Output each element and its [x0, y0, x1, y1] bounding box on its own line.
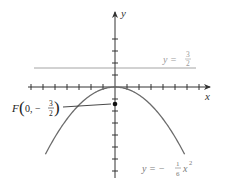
svg-text:1: 1	[176, 160, 180, 168]
svg-text:2: 2	[189, 159, 192, 166]
focus-leader-line	[63, 104, 111, 107]
directrix-label: y = 3 2	[162, 50, 191, 68]
svg-text:0, −: 0, −	[25, 103, 41, 114]
svg-text:3: 3	[49, 99, 53, 108]
svg-text:): )	[54, 98, 60, 117]
svg-text:6: 6	[176, 170, 180, 178]
parabola-diagram: y x y = 3 2 F ( 0, − 3 2 ) y = − 1 6 x 2	[0, 0, 229, 187]
svg-text:2: 2	[186, 59, 190, 68]
svg-text:y =: y =	[162, 54, 177, 65]
svg-text:F: F	[11, 102, 19, 114]
focus-label: F ( 0, − 3 2 )	[11, 98, 60, 118]
svg-text:3: 3	[186, 50, 190, 59]
x-axis-label: x	[204, 90, 210, 102]
svg-text:2: 2	[49, 109, 53, 118]
svg-text:x: x	[182, 163, 188, 174]
parabola-equation-label: y = − 1 6 x 2	[141, 159, 192, 178]
svg-text:y = −: y = −	[141, 163, 165, 174]
focus-point	[113, 102, 118, 107]
y-axis-label: y	[120, 7, 126, 19]
